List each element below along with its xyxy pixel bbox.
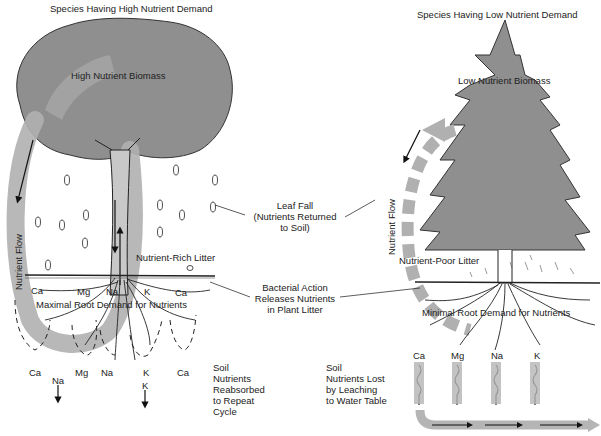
ion-top-na: Na [106, 286, 118, 297]
ion-bottom-na: Na [101, 367, 113, 378]
left-canopy-label: High Nutrient Biomass [71, 70, 166, 81]
ion-bottom-k: K [143, 367, 149, 378]
ground-line-left [25, 275, 215, 276]
left-panel-title: Species Having High Nutrient Demand [50, 3, 213, 14]
right-litter-label: Nutrient-Poor Litter [399, 255, 479, 266]
left-root-label: Maximal Root Demand for Nutrients [36, 299, 187, 310]
ion-top-mg: Mg [77, 286, 90, 297]
ground-line-right [415, 282, 600, 283]
right-panel-title: Species Having Low Nutrient Demand [417, 9, 578, 20]
ion-top-ca: Ca [31, 285, 43, 296]
leached-na-right: Na [491, 350, 503, 361]
leached-mg-right: Mg [451, 350, 464, 361]
leached-na-left: Na [52, 375, 64, 386]
water-table-flow [420, 410, 590, 425]
right-root-label: Minimal Root Demand for Nutrients [422, 307, 570, 318]
left-flow-label: Nutrient Flow [13, 234, 24, 290]
left-soil-note: Soil Nutrients Reabsorbed to Repeat Cycl… [213, 362, 265, 417]
ion-top-k: K [144, 286, 150, 297]
leached-k-right: K [534, 350, 540, 361]
ion-bottom-ca: Ca [29, 367, 41, 378]
left-litter-label: Nutrient-Rich Litter [136, 252, 215, 263]
leached-ca-right: Ca [413, 350, 425, 361]
ion-bottom-ca2: Ca [177, 367, 189, 378]
ion-bottom-mg: Mg [75, 367, 88, 378]
bacterial-action-callout: Bacterial Action Releases Nutrients in P… [250, 282, 340, 315]
ion-top-ca2: Ca [175, 287, 187, 298]
right-flow-label: Nutrient Flow [386, 199, 397, 255]
leached-k-left: K [142, 380, 148, 391]
right-canopy-label: Low Nutrient Biomass [458, 75, 550, 86]
leaf-fall-callout: Leaf Fall (Nutrients Returned to Soil) [245, 200, 345, 233]
broadleaf-canopy [17, 18, 233, 159]
right-soil-note: Soil Nutrients Lost by Leaching to Water… [326, 362, 387, 406]
